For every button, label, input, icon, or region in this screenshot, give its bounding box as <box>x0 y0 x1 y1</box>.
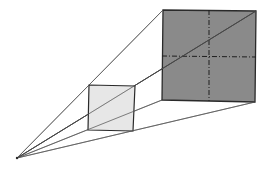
small-square <box>88 85 135 131</box>
ray-front-0 <box>17 10 163 158</box>
projection-diagram <box>0 0 271 173</box>
apex-point <box>16 157 18 159</box>
